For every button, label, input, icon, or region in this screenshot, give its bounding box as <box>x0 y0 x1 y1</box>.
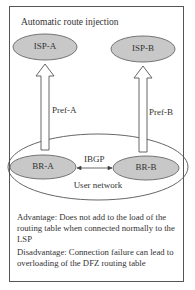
advantage-note: Advantage: Does not add to the load of t… <box>17 212 177 244</box>
pref-a-label: Pref-A <box>52 105 77 115</box>
isp-a-label: ISP-A <box>13 41 77 51</box>
ibgp-arrow <box>77 166 112 169</box>
br-b-label: BR-B <box>113 162 179 172</box>
br-a-label: BR-A <box>10 161 76 171</box>
disadvantage-note: Disadvantage: Connection failure can lea… <box>17 247 177 269</box>
ibgp-label: IBGP <box>84 154 105 164</box>
user-network-label: User network <box>48 180 148 190</box>
isp-b-label: ISP-B <box>111 43 175 53</box>
pref-b-label: Pref-B <box>149 107 173 117</box>
